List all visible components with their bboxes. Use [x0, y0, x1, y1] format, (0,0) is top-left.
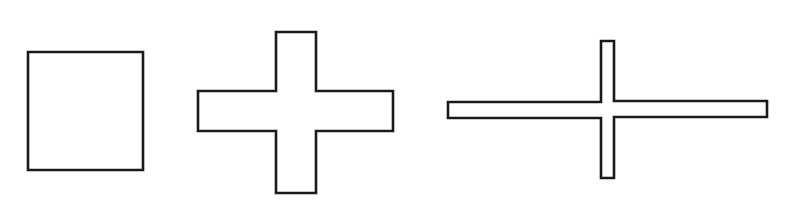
thick-cross-shape [198, 32, 393, 193]
square-shape [28, 52, 143, 170]
diagram-canvas [0, 0, 799, 205]
thin-cross-shape [448, 41, 767, 178]
